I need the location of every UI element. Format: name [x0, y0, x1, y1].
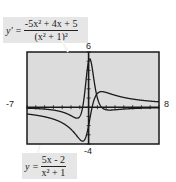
screen-frame	[27, 52, 159, 144]
graph-screen	[0, 0, 176, 182]
